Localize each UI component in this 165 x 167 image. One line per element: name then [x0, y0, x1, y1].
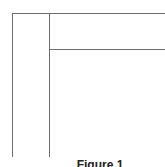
inner-divider-line — [49, 13, 50, 157]
left-border-line — [12, 13, 13, 157]
inner-header-divider-line — [49, 49, 165, 50]
top-border-line — [12, 13, 165, 14]
figure-caption: Figure 1 — [70, 158, 130, 167]
